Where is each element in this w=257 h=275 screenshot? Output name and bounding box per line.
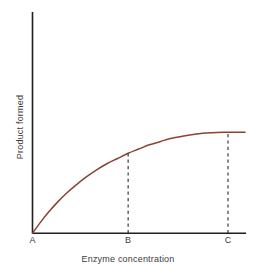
enzyme-saturation-chart bbox=[0, 0, 257, 275]
x-axis-title: Enzyme concentration bbox=[33, 254, 223, 264]
x-tick-label-c: C bbox=[218, 235, 238, 245]
y-axis-title: Product formed bbox=[15, 67, 25, 187]
saturation-curve bbox=[33, 132, 246, 233]
chart-figure: Product formed Enzyme concentration A B … bbox=[0, 0, 257, 275]
x-tick-label-a: A bbox=[23, 235, 43, 245]
x-tick-label-b: B bbox=[118, 235, 138, 245]
